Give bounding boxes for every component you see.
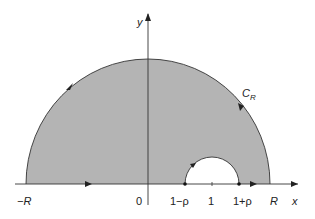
point-1-minus-rho (183, 182, 187, 186)
y-axis-label: y (136, 16, 144, 28)
x-axis-label: x (291, 195, 298, 207)
tick-label-R: R (270, 195, 278, 207)
contour-label: CR (242, 87, 256, 102)
tick-label-1-plus-rho: 1+ρ (233, 195, 252, 207)
y-axis-arrow-icon (145, 13, 151, 21)
tick-label-neg-R: −R (17, 195, 31, 207)
tick-label-0: 0 (136, 195, 142, 207)
contour-diagram: y x CR −R 0 1−ρ 1 1+ρ R (0, 0, 315, 219)
tick-label-1: 1 (208, 195, 214, 207)
point-1-plus-rho (237, 182, 241, 186)
tick-label-1-minus-rho: 1−ρ (170, 195, 189, 207)
x-axis-arrow-icon (291, 181, 298, 187)
